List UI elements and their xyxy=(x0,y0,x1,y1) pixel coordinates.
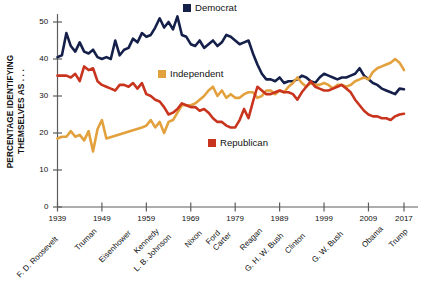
chart-plot-area xyxy=(0,0,424,301)
y-axis-title-line2: THEMSELVES AS . . . xyxy=(17,69,26,154)
legend-swatch-republican xyxy=(208,139,216,147)
x-tick-label: 2017 xyxy=(395,214,413,223)
x-tick-label: 1999 xyxy=(315,214,333,223)
y-tick-label: 50 xyxy=(39,17,48,26)
y-tick-label: 20 xyxy=(39,128,48,137)
legend-item-independent: Independent xyxy=(158,68,223,79)
legend-item-democrat: Democrat xyxy=(183,2,237,13)
x-tick-label: 1939 xyxy=(49,214,67,223)
y-axis-title-text: PERCENTAGE IDENTIFYING THEMSELVES AS . .… xyxy=(7,54,28,168)
legend-label-democrat: Democrat xyxy=(195,2,237,13)
y-axis-title: PERCENTAGE IDENTIFYING THEMSELVES AS . .… xyxy=(2,18,32,204)
legend-label-republican: Republican xyxy=(220,137,268,148)
x-tick-label: 1989 xyxy=(271,214,289,223)
legend-swatch-independent xyxy=(158,70,166,78)
x-tick-label: 1969 xyxy=(182,214,200,223)
x-tick-label: 1959 xyxy=(137,214,155,223)
y-axis-title-line1: PERCENTAGE IDENTIFYING xyxy=(7,54,16,168)
x-tick-label: 1949 xyxy=(93,214,111,223)
legend-label-independent: Independent xyxy=(170,68,223,79)
x-tick-label: 1979 xyxy=(226,214,244,223)
legend-swatch-democrat xyxy=(183,4,191,12)
axis-group xyxy=(53,14,418,212)
y-tick-label: 0 xyxy=(44,202,48,211)
party-identification-chart: PERCENTAGE IDENTIFYING THEMSELVES AS . .… xyxy=(0,0,424,301)
legend-item-republican: Republican xyxy=(208,137,268,148)
x-tick-label: 2009 xyxy=(359,214,377,223)
y-tick-label: 30 xyxy=(39,91,48,100)
y-tick-label: 40 xyxy=(39,54,48,63)
y-tick-label: 10 xyxy=(39,165,48,174)
series-group xyxy=(58,16,405,151)
